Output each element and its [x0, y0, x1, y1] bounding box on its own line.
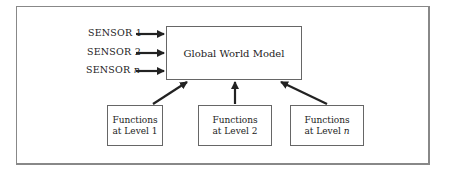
- functions-level-1-line2: at Level 1: [112, 126, 157, 137]
- functions-level-n-line2: at Level n: [304, 126, 349, 137]
- sensor-1-label: SENSOR 1: [88, 27, 142, 38]
- functions-level-2-box: Functions at Level 2: [198, 105, 272, 146]
- level-1-prefix: at Level: [112, 126, 151, 136]
- functions-level-2-line1: Functions: [212, 115, 257, 126]
- sensor-1-number: 1: [136, 27, 142, 38]
- level-n-prefix: at Level: [304, 126, 343, 136]
- functions-level-n-line1: Functions: [304, 115, 349, 126]
- functions-level-1-box: Functions at Level 1: [107, 105, 163, 146]
- sensor-2-label: SENSOR 2: [87, 46, 141, 57]
- functions-level-1-line1: Functions: [112, 115, 157, 126]
- global-world-model-label: Global World Model: [184, 48, 285, 59]
- sensor-n-number: n: [134, 64, 140, 75]
- sensor-2-number: 2: [135, 46, 141, 57]
- level-n-number: n: [344, 126, 350, 136]
- level-2-number: 2: [252, 126, 258, 136]
- sensor-2-prefix: SENSOR: [87, 46, 135, 57]
- sensor-1-prefix: SENSOR: [88, 27, 136, 38]
- level-n-arrow: [281, 82, 327, 104]
- sensor-n-label: SENSOR n: [86, 64, 140, 75]
- level-2-prefix: at Level: [212, 126, 251, 136]
- level-1-number: 1: [152, 126, 158, 136]
- level-1-arrow: [153, 82, 187, 104]
- functions-level-n-box: Functions at Level n: [290, 105, 364, 146]
- functions-level-2-line2: at Level 2: [212, 126, 257, 137]
- sensor-n-prefix: SENSOR: [86, 64, 134, 75]
- global-world-model-box: Global World Model: [166, 26, 302, 80]
